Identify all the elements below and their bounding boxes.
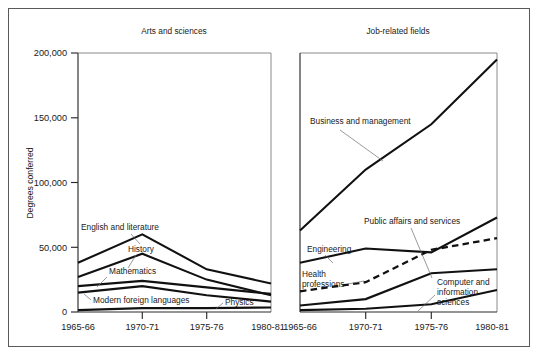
series-business-and-management xyxy=(300,60,497,231)
right-panel-title: Job-related fields xyxy=(366,26,429,36)
series-english-and-literature xyxy=(78,234,271,283)
left-panel-box xyxy=(78,53,271,312)
annotation-computer-and: Computer and xyxy=(437,277,490,287)
left-panel-title: Arts and sciences xyxy=(141,26,206,36)
annotation-health: Health xyxy=(302,269,326,279)
annotation-english-and-literature: English and literature xyxy=(81,222,159,232)
right-panel-box xyxy=(300,53,497,312)
y-tick-label-200000: 200,000 xyxy=(34,48,67,58)
y-tick-label-150000: 150,000 xyxy=(34,113,67,123)
chart-figure: 200,000 150,000 100,000 50,000 0 Degrees… xyxy=(0,0,539,362)
annotation-engineering: Engineering xyxy=(307,244,352,254)
annotation-mathematics: Mathematics xyxy=(109,266,156,276)
y-tick-label-0: 0 xyxy=(62,307,67,317)
annotation-public-affairs-and-services: Public affairs and services xyxy=(364,216,460,226)
chart-canvas: 200,000 150,000 100,000 50,000 0 Degrees… xyxy=(0,0,539,362)
left-x-tick-label-0: 1965-66 xyxy=(61,322,95,332)
leader-mathematics xyxy=(97,277,107,287)
right-x-tick-label-3: 1980-81 xyxy=(475,322,509,332)
annotation-sciences: sciences xyxy=(437,297,469,307)
right-x-tick-label-2: 1975-76 xyxy=(414,322,448,332)
annotation-modern-foreign-languages: Modern foreign languages xyxy=(93,295,189,305)
left-x-tick-label-1: 1970-71 xyxy=(125,322,159,332)
y-axis-label: Degrees conferred xyxy=(25,147,35,218)
right-panel: Job-related fields 1965-66 1970-71 1975-… xyxy=(283,26,509,332)
annotation-history: History xyxy=(128,244,155,254)
y-tick-label-50000: 50,000 xyxy=(39,243,67,253)
left-x-tick-label-2: 1975-76 xyxy=(190,322,224,332)
leader-business-and-management xyxy=(340,130,383,161)
left-x-tick-label-3: 1980-81 xyxy=(251,322,285,332)
series-physics xyxy=(78,308,271,311)
y-tick-label-100000: 100,000 xyxy=(34,178,67,188)
right-x-tick-label-1: 1970-71 xyxy=(349,322,383,332)
annotation-information: information xyxy=(437,287,478,297)
annotation-business-and-management: Business and management xyxy=(310,116,411,126)
annotation-physics: Physics xyxy=(225,297,254,307)
annotation-professions: professions xyxy=(302,279,344,289)
leader-modern-foreign-languages xyxy=(84,294,91,300)
right-x-tick-label-0: 1965-66 xyxy=(283,322,317,332)
left-panel: Arts and sciences 1965-66 1970-71 1975-7… xyxy=(61,26,285,332)
y-axis-group: 200,000 150,000 100,000 50,000 0 Degrees… xyxy=(25,48,78,317)
